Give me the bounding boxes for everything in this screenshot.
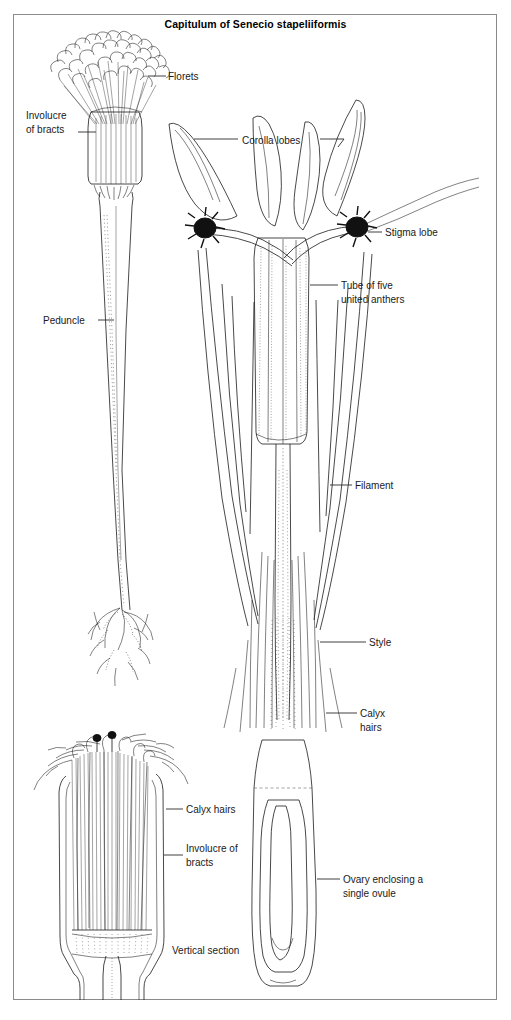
ovary: [252, 740, 316, 986]
label-stigma-lobe: Stigma lobe: [385, 227, 438, 238]
label-calyx-hairs-r: Calyx: [360, 708, 385, 719]
capitulum-whole: [51, 31, 170, 686]
label-anther-tube-line2: united anthers: [341, 294, 404, 305]
stigma-dots-section: [93, 732, 116, 753]
stigma-lobes: [185, 178, 479, 266]
ovary-band-section: [76, 934, 148, 954]
label-florets: Florets: [168, 71, 199, 82]
label-anther-tube: Tube of five: [341, 280, 393, 291]
basal-bract-tuft: [88, 608, 153, 686]
involucre-of-bracts-section: [59, 774, 164, 1000]
stigma-knob-right: [337, 206, 377, 247]
label-style: Style: [369, 637, 392, 648]
style: [275, 444, 291, 720]
peduncle: [99, 192, 133, 610]
label-ovary: Ovary enclosing a: [343, 874, 423, 885]
anther-tube: [254, 238, 309, 444]
label-vertical-section: Vertical section: [172, 945, 239, 956]
calyx-hairs-section: [34, 734, 188, 790]
packed-florets: [72, 752, 148, 930]
label-peduncle: Peduncle: [43, 315, 85, 326]
label-calyx-hairs-l: Calyx hairs: [186, 804, 235, 815]
leader-corolla-lobes-2: [320, 139, 344, 147]
capitulum-section: [34, 732, 188, 1001]
label-involucre-top-line2: of bracts: [26, 124, 64, 135]
stigma-knob-left: [185, 207, 225, 248]
label-involucre-top: Involucre: [26, 110, 67, 121]
label-corolla-lobes: Corolla lobes: [242, 135, 300, 146]
label-filament: Filament: [355, 480, 394, 491]
diagram-labels: Florets Involucre of bracts Corolla lobe…: [26, 71, 438, 956]
botanical-diagram: Florets Involucre of bracts Corolla lobe…: [0, 0, 511, 1020]
figure-plate: Capitulum of Senecio stapeliiformis: [0, 0, 511, 1020]
corolla-lobes: [169, 100, 365, 230]
floret-tips-section: [72, 735, 155, 762]
label-involucre-bot: Involucre of: [186, 843, 238, 854]
label-ovary-line2: single ovule: [343, 888, 396, 899]
label-calyx-hairs-r-line2: hairs: [360, 722, 382, 733]
filaments: [198, 248, 372, 630]
label-involucre-bot-line2: bracts: [186, 857, 213, 868]
